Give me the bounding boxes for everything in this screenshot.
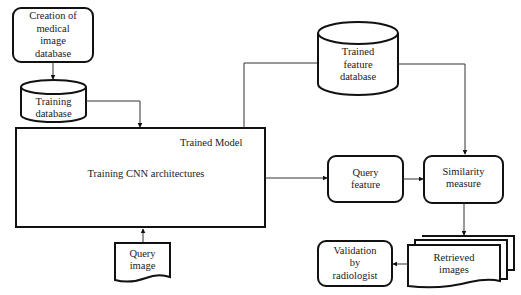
node-trained-feature-db: Trained feature database <box>318 45 398 85</box>
query-image-line-1: Query <box>129 248 155 261</box>
similarity-line-1: Similarity <box>443 166 485 179</box>
creation-line-1: Creation of <box>29 10 77 23</box>
validation-line-2: by <box>333 257 378 270</box>
feature-db-line-1: Trained <box>340 46 376 59</box>
query-feature-line-1: Query <box>351 167 380 180</box>
node-query-image: Query image <box>115 245 170 275</box>
creation-line-3: image <box>29 35 77 48</box>
query-image-line-2: image <box>129 260 155 273</box>
creation-line-4: database <box>29 48 77 61</box>
validation-line-3: radiologist <box>333 270 378 283</box>
node-similarity: Similarity measure <box>424 156 503 200</box>
retrieved-line-1: Retrieved <box>434 252 475 265</box>
edge-training-db-to-model <box>86 101 140 127</box>
trained-model-title: Trained Model <box>180 137 260 150</box>
node-query-feature: Query feature <box>328 156 403 202</box>
node-validation: Validation by radiologist <box>318 241 392 286</box>
retrieved-line-2: images <box>434 264 475 277</box>
trained-model-body: Training CNN architectures <box>66 168 226 181</box>
node-training-db: Training database <box>21 95 86 121</box>
creation-line-2: medical <box>29 23 77 36</box>
feature-db-line-3: database <box>340 71 376 84</box>
edge-feature-db-to-similarity <box>398 64 465 154</box>
validation-line-1: Validation <box>333 245 378 258</box>
query-feature-line-2: feature <box>351 179 380 192</box>
feature-db-line-2: feature <box>340 59 376 72</box>
node-retrieved: Retrieved images <box>408 248 500 280</box>
edge-model-to-feature-db <box>244 63 318 128</box>
training-db-line-2: database <box>35 108 71 121</box>
similarity-line-2: measure <box>443 178 485 191</box>
node-creation: Creation of medical image database <box>13 8 93 62</box>
training-db-line-1: Training <box>35 96 71 109</box>
